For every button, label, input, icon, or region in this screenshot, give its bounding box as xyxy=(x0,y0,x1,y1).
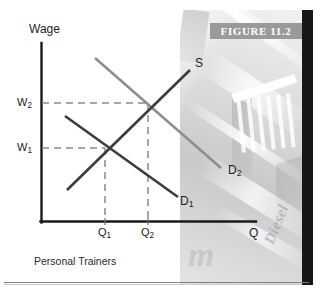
figure-caption: Personal Trainers xyxy=(34,255,116,267)
y-tick-label-w1-text: W xyxy=(17,141,27,153)
x-tick-label-q2-sub: 2 xyxy=(150,231,155,240)
curve-label-supply: S xyxy=(195,56,203,71)
x-tick-label-q1-sub: 1 xyxy=(107,231,112,240)
curve-label-demand-1-sub: 1 xyxy=(189,199,194,209)
curve-label-demand-1-text: D xyxy=(180,194,189,208)
figure-page: m Diesel FIGURE 11.2 Wage Q S D xyxy=(0,0,322,297)
y-tick-label-w1: W1 xyxy=(17,141,32,155)
x-tick-label-q2-text: Q xyxy=(141,226,150,238)
y-tick-label-w2: W2 xyxy=(17,96,32,110)
page-bottom-rule-shadow xyxy=(4,284,302,285)
x-tick-label-q1-text: Q xyxy=(98,226,107,238)
curve-label-supply-text: S xyxy=(195,56,203,70)
curve-demand-1 xyxy=(65,116,178,197)
x-tick-label-q1: Q1 xyxy=(98,226,111,240)
curve-label-demand-2-sub: 2 xyxy=(237,168,242,178)
supply-demand-chart xyxy=(0,0,322,297)
y-axis-label: Wage xyxy=(29,22,60,36)
y-tick-label-w1-sub: 1 xyxy=(27,146,32,155)
x-axis-label: Q xyxy=(249,226,258,240)
y-tick-label-w2-sub: 2 xyxy=(27,101,32,110)
page-bottom-rule xyxy=(4,282,309,283)
y-tick-label-w2-text: W xyxy=(17,96,27,108)
curve-label-demand-2-text: D xyxy=(228,163,237,177)
curve-label-demand-2: D2 xyxy=(228,163,242,178)
x-tick-label-q2: Q2 xyxy=(141,226,154,240)
curve-label-demand-1: D1 xyxy=(180,194,194,209)
